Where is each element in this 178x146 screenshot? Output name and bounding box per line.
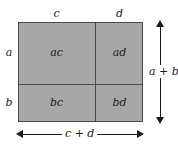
arrow-up-icon — [156, 20, 164, 27]
cell-label-top-right: ad — [96, 47, 143, 58]
width-dimension-label: c + d — [62, 128, 97, 139]
area-model-figure: ac ad bc bd c d a b a + b c + d — [0, 0, 178, 146]
edge-label-left-top-segment: a — [2, 47, 16, 58]
horizontal-divider — [18, 84, 143, 85]
cell-label-bottom-right: bd — [96, 97, 143, 108]
cell-label-top-left: ac — [18, 47, 95, 58]
edge-label-left-bottom-segment: b — [2, 97, 16, 108]
arrow-right-icon — [137, 130, 144, 138]
edge-label-top-right-segment: d — [96, 8, 143, 19]
height-dimension-label: a + b — [148, 65, 178, 78]
arrow-left-icon — [16, 130, 23, 138]
cell-label-bottom-left: bc — [18, 97, 95, 108]
edge-label-top-left-segment: c — [18, 8, 95, 19]
arrow-down-icon — [156, 117, 164, 124]
